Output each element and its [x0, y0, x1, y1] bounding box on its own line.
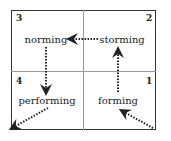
arrow-out-of-performing — [14, 108, 48, 127]
arrow-into-forming — [124, 112, 153, 128]
flow-arrows — [0, 0, 171, 141]
